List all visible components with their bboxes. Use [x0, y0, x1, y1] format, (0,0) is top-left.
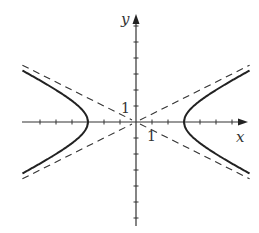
- asymptote-negative: [22, 65, 132, 120]
- y-axis-label: y: [120, 10, 130, 28]
- y-tick-label-1: 1: [121, 100, 130, 116]
- asymptote-positive: [22, 124, 132, 179]
- axes: [22, 14, 248, 226]
- x-axis-arrow-icon: [238, 119, 248, 126]
- asymptote-positive: [140, 65, 250, 120]
- x-axis-label: x: [236, 128, 245, 146]
- asymptote-negative: [140, 124, 250, 179]
- y-axis-arrow-icon: [133, 14, 140, 24]
- x-tick-label-1: 1: [147, 128, 156, 144]
- hyperbola-plot: y x 1 1: [0, 0, 259, 233]
